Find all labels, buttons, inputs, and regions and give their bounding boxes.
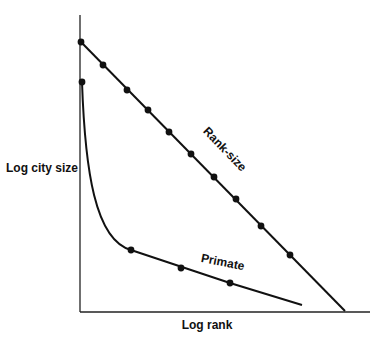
data-point <box>233 196 240 203</box>
data-point <box>124 87 131 94</box>
data-point <box>128 247 135 254</box>
data-point <box>227 280 234 287</box>
data-point <box>188 151 195 158</box>
rank-size-diagram: Rank-size Primate Log city size Log rank <box>0 0 380 341</box>
data-point <box>258 223 265 230</box>
data-point <box>211 174 218 181</box>
data-point <box>79 79 86 86</box>
data-point <box>78 39 85 46</box>
data-point <box>100 62 107 69</box>
rank-size-series <box>78 39 345 311</box>
data-point <box>166 129 173 136</box>
data-point <box>287 252 294 259</box>
x-axis-label: Log rank <box>182 318 233 332</box>
y-axis-label: Log city size <box>6 161 78 175</box>
data-point <box>178 265 185 272</box>
primate-label: Primate <box>200 251 246 273</box>
primate-series <box>79 79 302 305</box>
rank-size-label: Rank-size <box>200 124 249 174</box>
data-point <box>145 107 152 114</box>
